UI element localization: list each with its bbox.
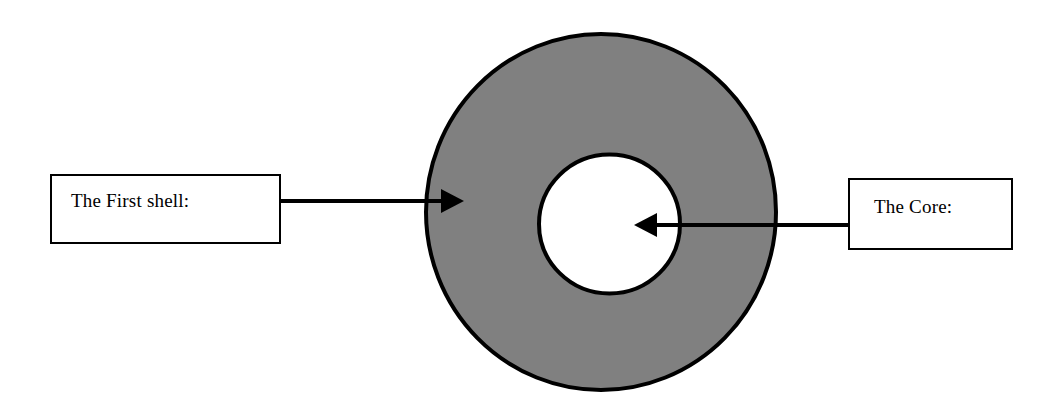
diagram-canvas: The First shell: The Core: (0, 0, 1064, 413)
first-shell-label-text: The First shell: (71, 190, 189, 212)
core-label-text: The Core: (874, 196, 952, 218)
